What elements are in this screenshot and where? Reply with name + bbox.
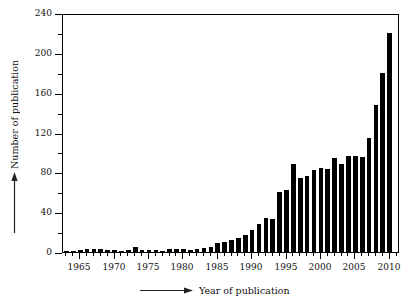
x-tick-minor [231, 253, 232, 256]
x-tick-minor [134, 253, 135, 256]
bar [126, 250, 131, 252]
x-tick-minor [279, 253, 280, 256]
bar [195, 249, 200, 252]
x-tick-label: 2010 [369, 262, 409, 272]
bar [98, 249, 103, 252]
bar [250, 230, 255, 252]
bar [174, 249, 179, 252]
x-tick-major [217, 253, 218, 259]
bar [181, 249, 186, 252]
bar [236, 238, 241, 252]
bar [325, 169, 330, 252]
bar [209, 247, 214, 252]
x-tick-minor [127, 253, 128, 256]
x-tick-label: 1965 [59, 262, 99, 272]
x-tick-minor [72, 253, 73, 256]
y-tick-label: 200 [2, 49, 52, 58]
x-axis-title: Year of publication [140, 285, 290, 296]
bar [319, 168, 324, 252]
x-tick-minor [334, 253, 335, 256]
x-tick-major [114, 253, 115, 259]
bar [243, 235, 248, 252]
bar [78, 250, 83, 252]
x-axis-title-text: Year of publication [199, 285, 290, 296]
bar [188, 250, 193, 252]
x-tick-minor [210, 253, 211, 256]
bar [229, 240, 234, 252]
x-tick-label: 2005 [334, 262, 374, 272]
y-tick-major [55, 134, 62, 135]
y-tick-major [55, 54, 62, 55]
x-tick-minor [65, 253, 66, 256]
bar-series [63, 15, 398, 252]
bar [264, 218, 269, 252]
bar [277, 192, 282, 252]
x-tick-minor [224, 253, 225, 256]
x-tick-label: 1980 [162, 262, 202, 272]
x-tick-minor [313, 253, 314, 256]
x-tick-minor [120, 253, 121, 256]
x-tick-minor [272, 253, 273, 256]
bar [85, 249, 90, 252]
bar [270, 219, 275, 252]
bar [133, 247, 138, 252]
bar [291, 164, 296, 252]
bar [64, 251, 69, 252]
bar [339, 164, 344, 252]
x-tick-minor [86, 253, 87, 256]
x-tick-major [354, 253, 355, 259]
y-tick-major [55, 14, 62, 15]
x-tick-major [251, 253, 252, 259]
y-tick-major [55, 253, 62, 254]
y-tick-major [55, 213, 62, 214]
x-tick-label: 1990 [231, 262, 271, 272]
x-tick-major [79, 253, 80, 259]
bar [284, 190, 289, 252]
bar [257, 224, 262, 252]
bar [222, 242, 227, 252]
x-tick-minor [196, 253, 197, 256]
x-tick-minor [237, 253, 238, 256]
x-tick-minor [292, 253, 293, 256]
x-tick-minor [93, 253, 94, 256]
bar [154, 250, 159, 252]
x-tick-minor [100, 253, 101, 256]
x-tick-minor [162, 253, 163, 256]
y-tick-major [55, 173, 62, 174]
x-tick-minor [368, 253, 369, 256]
bar [332, 158, 337, 252]
bar [119, 251, 124, 252]
x-tick-minor [203, 253, 204, 256]
x-tick-minor [258, 253, 259, 256]
x-tick-minor [347, 253, 348, 256]
y-axis-title-text: Number of publication [9, 60, 20, 169]
bar [387, 33, 392, 252]
x-tick-minor [375, 253, 376, 256]
bar [346, 156, 351, 252]
bar [374, 105, 379, 252]
bar [305, 176, 310, 252]
bar [298, 178, 303, 252]
x-tick-minor [155, 253, 156, 256]
bar [147, 250, 152, 252]
x-tick-minor [327, 253, 328, 256]
x-tick-minor [265, 253, 266, 256]
x-tick-minor [306, 253, 307, 256]
bar [140, 250, 145, 252]
bar [167, 249, 172, 252]
x-tick-minor [361, 253, 362, 256]
bar [112, 250, 117, 252]
bar [360, 157, 365, 252]
x-tick-major [389, 253, 390, 259]
up-arrow-icon [10, 171, 19, 233]
x-tick-major [320, 253, 321, 259]
x-tick-major [148, 253, 149, 259]
bar [312, 170, 317, 252]
x-tick-minor [169, 253, 170, 256]
x-tick-minor [107, 253, 108, 256]
bar [71, 251, 76, 252]
x-tick-major [286, 253, 287, 259]
y-axis-title: Number of publication [6, 60, 22, 260]
bar [380, 73, 385, 252]
plot-area [62, 14, 399, 253]
